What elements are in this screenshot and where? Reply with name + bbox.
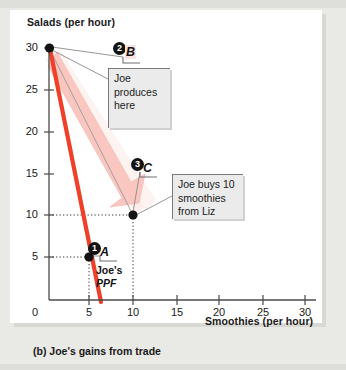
x-tick-label-25: 25 — [254, 306, 272, 318]
point-label-c: C — [143, 161, 152, 175]
callout-buys-line1: Joe buys 10 — [178, 178, 238, 192]
y-tick-label-0: 0 — [20, 306, 38, 318]
y-axis-title: Salads (per hour) — [27, 16, 115, 28]
callout-buys-line2: smoothies — [178, 192, 238, 206]
callout-buys-line3: from Liz — [178, 205, 238, 219]
y-tick-label-30: 30 — [20, 41, 38, 53]
ppf-label-line1: Joe's — [96, 264, 122, 277]
callout-produces-line1: Joe — [114, 72, 165, 86]
callout-produces-line3: here — [114, 99, 165, 113]
figure-panel: Salads (per hour) Smoothies (per hour) 3… — [0, 0, 346, 370]
ppf-label-line2: PPF — [96, 277, 122, 290]
x-tick-label-15: 15 — [168, 306, 186, 318]
callout-produces-line2: produces — [114, 86, 165, 100]
point-B — [45, 43, 54, 52]
x-tick-label-10: 10 — [124, 306, 142, 318]
figure-caption: (b) Joe's gains from trade — [33, 345, 161, 357]
x-tick-label-30: 30 — [296, 306, 314, 318]
y-tick-label-15: 15 — [20, 167, 38, 179]
y-tick-label-25: 25 — [20, 83, 38, 95]
point-label-b: B — [125, 45, 136, 59]
y-tick-label-20: 20 — [20, 125, 38, 137]
point-C — [128, 210, 137, 219]
y-tick-label-10: 10 — [20, 208, 38, 220]
point-label-a: A — [100, 245, 109, 259]
x-tick-label-5: 5 — [80, 306, 98, 318]
ppf-line-label: Joe's PPF — [96, 264, 122, 290]
callout-joe-produces-here: Joe produces here — [108, 68, 170, 128]
callout-joe-buys-smoothies: Joe buys 10 smoothies from Liz — [172, 174, 243, 219]
x-tick-label-20: 20 — [210, 306, 228, 318]
y-tick-label-5: 5 — [20, 250, 38, 262]
